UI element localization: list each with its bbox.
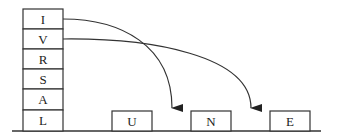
stack-cell-label: S (39, 72, 46, 87)
slot-label: E (286, 114, 294, 129)
slot-label: U (127, 114, 137, 129)
stack-cell: A (23, 89, 63, 110)
stack-cell-label: I (41, 12, 45, 27)
slot-box-n: N (191, 111, 231, 131)
slot-box-e: E (270, 111, 310, 131)
arrow-v-to-gap-2 (63, 39, 251, 108)
stack-cell: V (23, 29, 63, 49)
stack-cell-label: A (38, 92, 48, 107)
stack: I V R S A L (23, 9, 63, 131)
arrow-i-to-gap-1 (63, 19, 172, 108)
stack-cell: I (23, 9, 63, 29)
stack-cell-label: V (38, 32, 48, 47)
stack-cell: L (23, 110, 63, 131)
slot-box-u: U (112, 111, 152, 131)
stack-diagram: I V R S A L U N E (0, 0, 338, 137)
stack-cell: R (23, 49, 63, 69)
stack-cell-label: L (39, 113, 47, 128)
stack-cell: S (23, 69, 63, 89)
stack-cell-label: R (39, 52, 48, 67)
slot-label: N (206, 114, 216, 129)
